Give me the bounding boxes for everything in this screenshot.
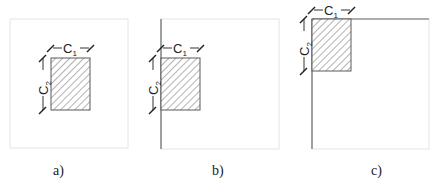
c2-label: C2 — [297, 42, 314, 56]
caption-c: c) — [371, 163, 382, 179]
caption-a: a) — [53, 163, 64, 179]
column-section — [312, 19, 351, 71]
column-section — [51, 58, 90, 110]
panel-b: C1 C2 b) — [146, 19, 279, 179]
dimension-c2: C2 — [36, 55, 53, 114]
dimension-c1: C1 — [47, 41, 94, 58]
panel-c: C1 C2 c) — [297, 3, 429, 179]
c1-label: C1 — [324, 3, 338, 20]
caption-b: b) — [212, 163, 224, 179]
panel-a: C1 C2 a) — [10, 19, 128, 179]
c1-label: C1 — [173, 41, 187, 58]
column-diagram: C1 C2 a) C1 C2 b) — [0, 0, 443, 189]
dimension-c1: C1 — [308, 3, 355, 20]
c1-label: C1 — [63, 41, 77, 58]
c2-label: C2 — [36, 81, 53, 95]
column-section — [161, 58, 200, 110]
dimension-c1: C1 — [157, 41, 204, 58]
c2-label: C2 — [146, 81, 163, 95]
